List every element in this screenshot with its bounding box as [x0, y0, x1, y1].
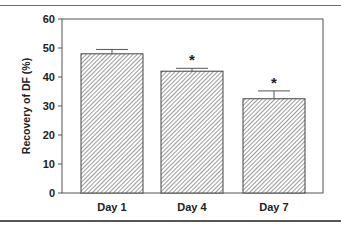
significance-asterisk: * [189, 51, 195, 68]
y-axis: 0102030405060 [43, 13, 62, 199]
x-tick-label: Day 1 [97, 201, 126, 213]
bar-rect [243, 99, 305, 193]
bottom-rule [0, 220, 341, 222]
significance-asterisk: * [271, 74, 277, 91]
y-axis-title: Recovery of DF (%) [20, 58, 32, 154]
y-tick-label: 40 [43, 71, 55, 83]
x-tick-label: Day 7 [259, 201, 288, 213]
bar-day-7: * [243, 74, 305, 193]
bar-chart: 0102030405060 ** Day 1Day 4Day 7 Recover… [0, 0, 341, 228]
y-tick-label: 0 [49, 187, 55, 199]
bar-day-1 [81, 49, 143, 193]
bar-day-4: * [161, 51, 223, 193]
bar-rect [161, 71, 223, 193]
y-tick-label: 60 [43, 13, 55, 25]
x-axis: Day 1Day 4Day 7 [97, 201, 288, 213]
bar-rect [81, 54, 143, 193]
y-tick-label: 30 [43, 100, 55, 112]
x-tick-label: Day 4 [177, 201, 207, 213]
y-tick-label: 20 [43, 129, 55, 141]
y-tick-label: 10 [43, 158, 55, 170]
y-tick-label: 50 [43, 42, 55, 54]
bars: ** [81, 49, 305, 193]
